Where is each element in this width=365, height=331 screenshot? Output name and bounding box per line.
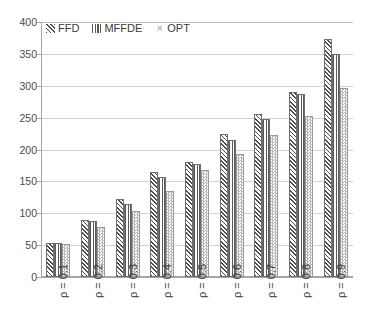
bar-mffde xyxy=(228,140,236,277)
bar-ffd xyxy=(81,220,89,277)
x-tick-label: ρ = 0.9 xyxy=(336,264,347,298)
bar-group xyxy=(180,22,215,277)
bar-group xyxy=(76,22,111,277)
bar-ffd xyxy=(324,39,332,277)
bar-ffd xyxy=(150,172,158,277)
bar-group xyxy=(41,22,76,277)
bar-mffde xyxy=(158,177,166,277)
bar-opt xyxy=(270,135,278,277)
bar-groups xyxy=(41,22,353,277)
y-tick-label-100: 100 xyxy=(3,208,37,218)
bar-opt xyxy=(201,170,209,277)
legend-swatch-opt-icon: × xyxy=(155,24,164,33)
bar-ffd xyxy=(254,114,262,277)
x-tick-label: ρ = 0.1 xyxy=(58,264,69,298)
x-tick-label: ρ = 0.3 xyxy=(128,264,139,298)
bar-ffd xyxy=(185,162,193,277)
x-tick-label: ρ = 0.2 xyxy=(93,264,104,298)
plot-area xyxy=(41,22,353,277)
x-tick: ρ = 0.8 xyxy=(284,279,319,331)
bar-chart: 400350300250200150100500 ρ = 0.1ρ = 0.2ρ… xyxy=(0,0,365,331)
legend-label: MFFDE xyxy=(104,23,142,34)
y-tick-label-150: 150 xyxy=(3,176,37,186)
legend-swatch-mffde-icon xyxy=(92,24,101,33)
x-tick: ρ = 0.6 xyxy=(214,279,249,331)
bar-group xyxy=(145,22,180,277)
x-tick: ρ = 0.2 xyxy=(76,279,111,331)
chart-legend: FFDMFFDE×OPT xyxy=(46,23,190,34)
y-tick-label-200: 200 xyxy=(3,145,37,155)
legend-label: OPT xyxy=(167,23,190,34)
x-tick: ρ = 0.3 xyxy=(110,279,145,331)
bar-opt xyxy=(340,88,348,277)
legend-item-ffd[interactable]: FFD xyxy=(46,23,79,34)
y-tick-label-350: 350 xyxy=(3,49,37,59)
x-tick: ρ = 0.4 xyxy=(145,279,180,331)
legend-swatch-ffd-icon xyxy=(46,24,55,33)
bar-ffd xyxy=(46,243,54,277)
legend-item-mffde[interactable]: MFFDE xyxy=(92,23,142,34)
legend-label: FFD xyxy=(58,23,79,34)
y-axis: 400350300250200150100500 xyxy=(0,22,37,277)
bar-mffde xyxy=(193,164,201,277)
x-tick: ρ = 0.5 xyxy=(180,279,215,331)
bar-mffde xyxy=(297,94,305,277)
bar-group xyxy=(284,22,319,277)
x-tick-label: ρ = 0.6 xyxy=(232,264,243,298)
y-tick-label-0: 0 xyxy=(3,272,37,282)
x-tick: ρ = 0.9 xyxy=(318,279,353,331)
y-tick-label-300: 300 xyxy=(3,81,37,91)
x-tick-label: ρ = 0.4 xyxy=(162,264,173,298)
x-tick: ρ = 0.1 xyxy=(41,279,76,331)
bar-opt xyxy=(305,116,313,277)
bar-ffd xyxy=(289,92,297,277)
legend-item-opt[interactable]: ×OPT xyxy=(155,23,190,34)
bar-group xyxy=(214,22,249,277)
bar-ffd xyxy=(220,134,228,277)
y-tick-label-400: 400 xyxy=(3,17,37,27)
x-tick-label: ρ = 0.5 xyxy=(197,264,208,298)
x-axis: ρ = 0.1ρ = 0.2ρ = 0.3ρ = 0.4ρ = 0.5ρ = 0… xyxy=(41,279,353,331)
x-tick: ρ = 0.7 xyxy=(249,279,284,331)
bar-mffde xyxy=(332,54,340,277)
x-tick-label: ρ = 0.7 xyxy=(266,264,277,298)
bar-ffd xyxy=(116,199,124,277)
bar-group xyxy=(318,22,353,277)
bar-group xyxy=(249,22,284,277)
y-tick-label-50: 50 xyxy=(3,240,37,250)
bar-group xyxy=(110,22,145,277)
bar-mffde xyxy=(262,119,270,277)
bar-opt xyxy=(236,154,244,277)
x-tick-label: ρ = 0.8 xyxy=(301,264,312,298)
y-tick-label-250: 250 xyxy=(3,113,37,123)
